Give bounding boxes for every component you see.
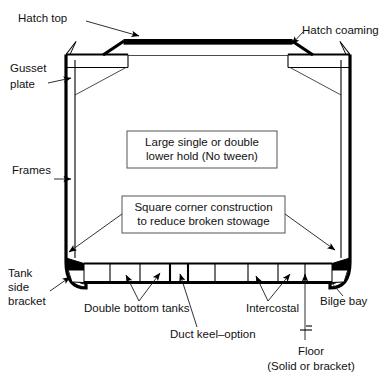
label-hatch-coaming: Hatch coaming — [292, 24, 379, 44]
label-duct-keel-option-text: Duct keel–option — [170, 328, 256, 340]
callout-square-corner-line1: Square corner construction — [134, 201, 272, 213]
callout-square-corner-line2: to reduce broken stowage — [137, 215, 269, 227]
label-intercostal-text: Intercostal — [246, 302, 299, 314]
label-tank-side-bracket-line3: bracket — [8, 295, 47, 307]
label-tank-side-bracket-line2: side — [8, 281, 29, 293]
label-floor-line1: Floor — [298, 345, 324, 357]
gusset-plate-left — [75, 68, 126, 96]
hatch-top-plate — [124, 40, 292, 45]
label-frames-text: Frames — [12, 164, 51, 176]
tank-side-bracket-right — [332, 258, 350, 271]
sheer-corner-left — [66, 42, 76, 55]
callout-lower-hold-line2: lower hold (No tween) — [146, 150, 258, 162]
leader-square-corner-left — [69, 214, 122, 252]
ship-cross-section-svg: Large single or double lower hold (No tw… — [0, 0, 391, 382]
tank-side-bracket-left — [66, 258, 84, 271]
label-intercostal: Intercostal — [246, 274, 299, 314]
label-double-bottom-tanks-text: Double bottom tanks — [84, 302, 190, 314]
leader-square-corner-right — [285, 214, 335, 250]
label-gusset-plate-line2: plate — [10, 78, 35, 90]
diagram-canvas: Large single or double lower hold (No tw… — [0, 0, 391, 382]
label-tank-side-bracket-line1: Tank — [8, 267, 33, 279]
side-shell-left — [66, 55, 75, 263]
label-hatch-top: Hatch top — [18, 12, 139, 36]
hatch-coaming-right — [292, 41, 313, 55]
side-shell-right — [341, 55, 350, 263]
sheer-corner-right — [340, 42, 350, 55]
label-tank-side-bracket: Tank side bracket — [8, 267, 70, 307]
callout-square-corner: Square corner construction to reduce bro… — [122, 196, 285, 233]
label-gusset-plate-line1: Gusset — [10, 62, 47, 74]
label-hatch-top-text: Hatch top — [18, 12, 67, 24]
label-bilge-bay-text: Bilge bay — [320, 295, 368, 307]
label-hatch-coaming-text: Hatch coaming — [302, 24, 379, 36]
double-bottom-dividers — [110, 264, 305, 283]
callout-lower-hold: Large single or double lower hold (No tw… — [127, 131, 277, 168]
label-double-bottom-tanks: Double bottom tanks — [84, 273, 190, 314]
hatch-coaming-left — [103, 41, 124, 55]
label-frames: Frames — [12, 164, 71, 179]
gusset-plate-right — [290, 68, 341, 96]
label-floor-line2: (Solid or bracket) — [267, 360, 355, 372]
callout-lower-hold-line1: Large single or double — [145, 136, 259, 148]
label-floor: Floor (Solid or bracket) — [267, 274, 355, 372]
label-gusset-plate: Gusset plate — [10, 62, 71, 90]
